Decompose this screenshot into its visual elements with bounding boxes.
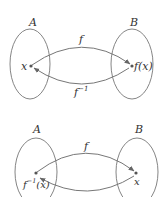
arrow-f-inverse-label: f−1: [73, 85, 88, 99]
point-fx-label: f(x): [133, 60, 153, 73]
point-x: [29, 64, 32, 67]
set-b-label: B: [129, 16, 138, 29]
arrow-f-2: [37, 153, 134, 172]
set-a-ellipse: [10, 29, 50, 99]
set-b-label-2: B: [134, 123, 143, 136]
point-finv-x: [34, 171, 37, 174]
arrow-f-2-label: f: [83, 140, 90, 153]
set-a-label: A: [28, 16, 37, 29]
function-inverse-diagram: A B x f(x) f f−1 A B f−1(x) x f: [0, 0, 162, 197]
set-b-ellipse-2: [116, 138, 158, 197]
top-diagram: A B x f(x) f f−1: [10, 16, 153, 99]
point-x-2-label: x: [134, 176, 140, 187]
arrow-f: [32, 47, 130, 65]
arrow-f-label: f: [78, 33, 85, 46]
point-x-2: [134, 171, 137, 174]
arrow-f-inverse: [34, 68, 129, 84]
bottom-diagram: A B f−1(x) x f: [15, 123, 158, 197]
point-finv-x-label: f−1(x): [22, 177, 50, 190]
point-x-label: x: [21, 60, 28, 73]
set-a-label-2: A: [32, 123, 41, 136]
